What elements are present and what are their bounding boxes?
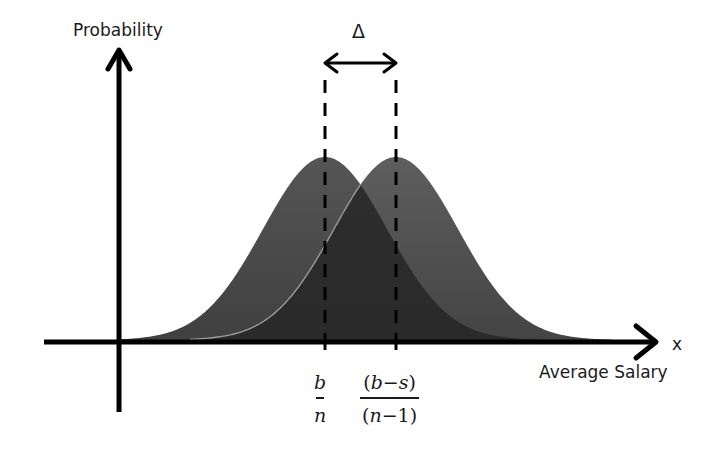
x-variable-label: x [672, 334, 682, 354]
right-mean-numerator: (b−s) [361, 370, 418, 394]
left-mean-denominator: n [312, 403, 328, 427]
y-axis-label: Probability [73, 20, 163, 40]
x-axis-title: Average Salary [539, 362, 668, 382]
fraction-bar [316, 397, 324, 399]
left-mean-formula: b n [312, 370, 328, 427]
delta-double-arrow-icon [325, 54, 396, 72]
left-mean-numerator: b [312, 370, 328, 394]
fraction-bar [360, 397, 419, 399]
y-axis [108, 50, 130, 412]
right-mean-denominator: (n−1) [360, 403, 419, 427]
right-mean-formula: (b−s) (n−1) [360, 370, 419, 427]
delta-label: Δ [352, 20, 365, 42]
curves-group [121, 157, 612, 340]
